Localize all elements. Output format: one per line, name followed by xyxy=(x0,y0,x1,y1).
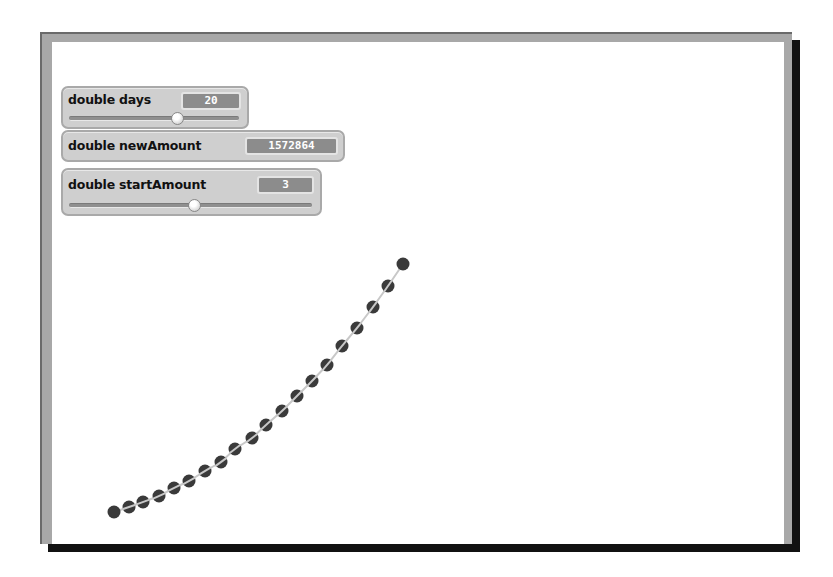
variable-monitor-days[interactable]: double days 20 xyxy=(61,86,249,129)
monitor-value-days: 20 xyxy=(181,92,241,110)
monitor-label-days: double days xyxy=(68,92,151,107)
path-line xyxy=(114,264,403,512)
monitor-value-newamount: 1572864 xyxy=(245,137,338,155)
variable-monitor-startamount[interactable]: double startAmount 3 xyxy=(61,168,322,216)
startamount-slider-knob[interactable] xyxy=(188,199,201,212)
plot-point xyxy=(108,506,121,519)
monitor-label-newamount: double newAmount xyxy=(68,138,201,153)
variable-monitor-newamount[interactable]: double newAmount 1572864 xyxy=(61,130,345,162)
days-slider-track[interactable] xyxy=(69,116,239,121)
monitor-label-startamount: double startAmount xyxy=(68,177,206,192)
monitor-value-startamount: 3 xyxy=(257,176,314,194)
plot-point xyxy=(397,258,410,271)
days-slider-knob[interactable] xyxy=(171,112,184,125)
